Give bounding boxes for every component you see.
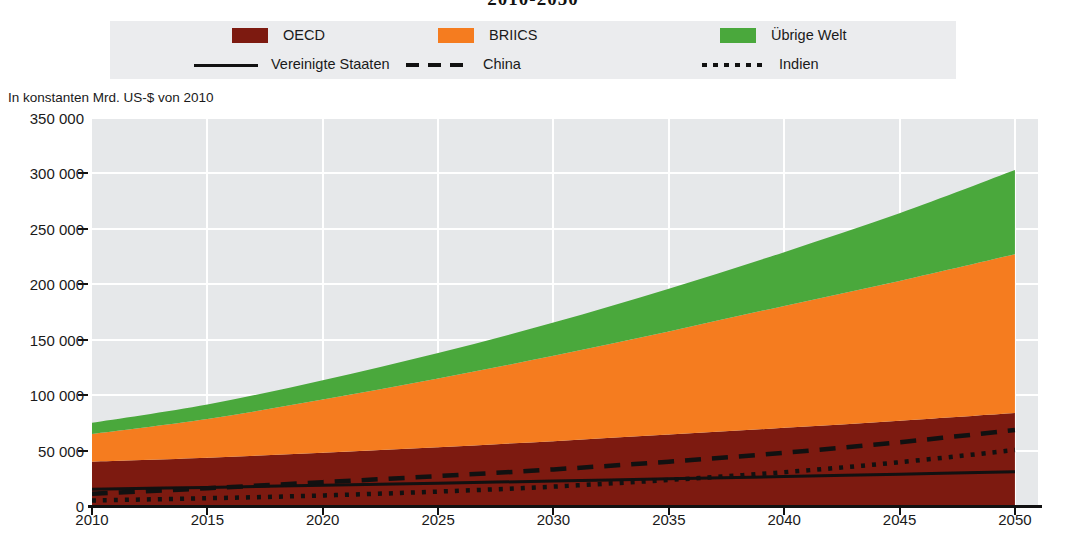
- y-axis-tick-label: 350 000: [30, 110, 84, 127]
- y-axis-tick-label: 100 000: [30, 387, 84, 404]
- x-axis-tick-label: 2020: [306, 511, 339, 528]
- y-axis-tick-label: 300 000: [30, 165, 84, 182]
- color-swatch-icon: [720, 28, 756, 43]
- legend-label-briics: BRIICS: [489, 28, 537, 43]
- chart-title: 2010-2050: [0, 0, 1066, 10]
- legend-row-lines: Vereinigte Staaten China Indien: [110, 50, 956, 79]
- legend-item-rest-of-world[interactable]: Übrige Welt: [672, 21, 956, 50]
- legend-item-united-states[interactable]: Vereinigte Staaten: [110, 50, 388, 79]
- legend-label-rest-of-world: Übrige Welt: [771, 28, 846, 43]
- x-axis-tick-label: 2035: [652, 511, 685, 528]
- y-axis-tick-label: 50 000: [38, 442, 84, 459]
- legend-item-china[interactable]: China: [388, 50, 672, 79]
- x-axis-tick-label: 2010: [75, 511, 108, 528]
- x-axis-tick-label: 2050: [998, 511, 1031, 528]
- y-axis-tick-labels: 050 000100 000150 000200 000250 000300 0…: [0, 118, 84, 507]
- solid-line-swatch-icon: [194, 59, 258, 71]
- y-axis-unit-caption: In konstanten Mrd. US-$ von 2010: [8, 90, 214, 105]
- legend-item-india[interactable]: Indien: [672, 50, 956, 79]
- plot-canvas: [92, 118, 1038, 506]
- color-swatch-icon: [438, 28, 474, 43]
- color-swatch-icon: [232, 28, 268, 43]
- y-axis-tick-label: 200 000: [30, 276, 84, 293]
- legend-label-united-states: Vereinigte Staaten: [271, 57, 390, 72]
- legend-item-oecd[interactable]: OECD: [110, 21, 388, 50]
- x-axis-tick-labels: 201020152020202520302035204020452050: [92, 511, 1038, 535]
- legend-label-oecd: OECD: [283, 28, 325, 43]
- x-axis-tick-label: 2030: [537, 511, 570, 528]
- legend-row-areas: OECD BRIICS Übrige Welt: [110, 21, 956, 50]
- x-axis-tick-label: 2040: [768, 511, 801, 528]
- y-axis-tick-label: 150 000: [30, 331, 84, 348]
- y-axis-tick-label: 250 000: [30, 220, 84, 237]
- x-axis-tick-label: 2045: [883, 511, 916, 528]
- legend-label-india: Indien: [779, 57, 819, 72]
- x-axis-tick-label: 2025: [421, 511, 454, 528]
- chart-figure: 2010-2050 OECD BRIICS Übrige Welt Verein…: [0, 0, 1066, 538]
- dashed-line-swatch-icon: [406, 59, 470, 71]
- chart-legend: OECD BRIICS Übrige Welt Vereinigte Staat…: [110, 21, 956, 79]
- legend-item-briics[interactable]: BRIICS: [388, 21, 672, 50]
- dotted-line-swatch-icon: [702, 59, 766, 71]
- plot-area: [92, 118, 1038, 506]
- x-axis-tick-label: 2015: [191, 511, 224, 528]
- legend-label-china: China: [483, 57, 521, 72]
